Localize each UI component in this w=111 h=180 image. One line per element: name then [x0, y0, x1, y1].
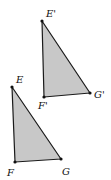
vertex-point-g [59, 157, 62, 160]
vertex-label-e: E [15, 74, 24, 85]
vertex-label-g: G [62, 166, 70, 177]
vertex-label-e-prime: E' [45, 8, 56, 19]
triangle-image: E' F' G' [37, 8, 105, 111]
vertex-point-e-prime [40, 19, 43, 22]
vertex-label-f: F [6, 167, 15, 178]
triangle-efg [12, 87, 61, 162]
vertex-label-g-prime: G' [94, 89, 105, 100]
vertex-label-f-prime: F' [37, 100, 48, 111]
vertex-point-f-prime [42, 95, 45, 98]
vertex-point-g-prime [88, 91, 91, 94]
vertex-point-f [13, 160, 16, 163]
diagram-canvas: E' F' G' E F G [0, 0, 111, 180]
vertex-point-e [10, 85, 13, 88]
triangle-e-prime-f-prime-g-prime [42, 21, 90, 97]
